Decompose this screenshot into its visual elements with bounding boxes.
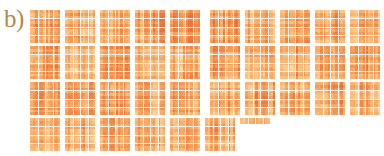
heatmap-row [30, 118, 275, 151]
heatmap-tile [210, 10, 240, 43]
heatmap-tile [170, 10, 200, 43]
heatmap-canvas [245, 46, 275, 79]
heatmap-canvas [170, 118, 200, 151]
heatmap-tile [30, 82, 60, 115]
heatmap-canvas [30, 10, 60, 43]
heatmap-canvas [30, 118, 60, 151]
heatmap-canvas [245, 10, 275, 43]
heatmap-canvas [100, 82, 130, 115]
heatmap-tile [65, 46, 95, 79]
heatmap-tile [135, 118, 165, 151]
heatmap-canvas [65, 82, 95, 115]
heatmap-tile [135, 82, 165, 115]
heatmap-canvas [245, 82, 275, 115]
heatmap-tile [315, 10, 345, 43]
heatmap-tile [30, 10, 60, 43]
heatmap-tile [205, 118, 235, 151]
heatmap-canvas [315, 10, 345, 43]
heatmap-tile [280, 10, 310, 43]
panel-label: b) [4, 4, 30, 34]
heatmap-tile [240, 118, 270, 125]
heatmap-canvas [100, 10, 130, 43]
heatmap-canvas [280, 10, 310, 43]
heatmap-row [30, 82, 384, 115]
heatmap-tile [65, 10, 95, 43]
heatmap-tile [170, 118, 200, 151]
heatmap-canvas [135, 10, 165, 43]
heatmap-tile [315, 46, 345, 79]
heatmap-canvas [65, 46, 95, 79]
heatmap-canvas [65, 10, 95, 43]
heatmap-canvas [30, 82, 60, 115]
heatmap-canvas [315, 46, 345, 79]
heatmap-tile [135, 10, 165, 43]
heatmap-canvas [135, 46, 165, 79]
heatmap-tile [100, 46, 130, 79]
heatmap-canvas [100, 46, 130, 79]
heatmap-tile [210, 46, 240, 79]
heatmap-canvas [170, 46, 200, 79]
heatmap-canvas [65, 118, 95, 151]
heatmap-tile [315, 82, 345, 115]
heatmap-canvas [280, 46, 310, 79]
heatmap-canvas [210, 46, 240, 79]
heatmap-tile [170, 82, 200, 115]
heatmap-tile [350, 46, 380, 79]
heatmap-canvas [30, 46, 60, 79]
heatmap-tile [350, 82, 380, 115]
heatmap-tile [280, 46, 310, 79]
heatmap-tile [65, 118, 95, 151]
heatmap-tile [280, 82, 310, 115]
heatmap-canvas [315, 82, 345, 115]
heatmap-canvas [210, 82, 240, 115]
heatmap-tile [135, 46, 165, 79]
heatmap-tile [245, 82, 275, 115]
heatmap-canvas [240, 118, 270, 125]
heatmap-canvas [210, 10, 240, 43]
heatmap-tile [65, 82, 95, 115]
heatmap-grid [30, 10, 359, 156]
heatmap-tile [245, 46, 275, 79]
heatmap-canvas [280, 82, 310, 115]
heatmap-row [30, 10, 384, 43]
heatmap-canvas [170, 10, 200, 43]
heatmap-row [30, 46, 384, 79]
heatmap-tile [30, 118, 60, 151]
heatmap-tile [210, 82, 240, 115]
heatmap-canvas [135, 82, 165, 115]
heatmap-tile [100, 82, 130, 115]
heatmap-canvas [350, 46, 380, 79]
heatmap-tile [170, 46, 200, 79]
heatmap-tile [350, 10, 380, 43]
heatmap-canvas [350, 10, 380, 43]
heatmap-tile [100, 10, 130, 43]
heatmap-canvas [100, 118, 130, 151]
heatmap-canvas [350, 82, 380, 115]
heatmap-tile [100, 118, 130, 151]
heatmap-canvas [205, 118, 235, 151]
heatmap-tile [245, 10, 275, 43]
heatmap-tile [30, 46, 60, 79]
heatmap-canvas [170, 82, 200, 115]
heatmap-canvas [135, 118, 165, 151]
